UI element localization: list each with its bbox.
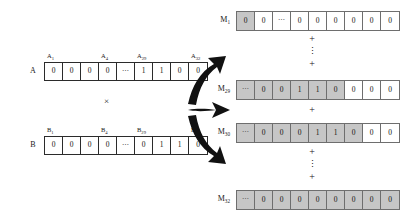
sep-1-symbol-2: + xyxy=(302,58,322,70)
operand-a-label-0: A1 xyxy=(47,51,54,61)
product-m29-cell-1: 0 xyxy=(255,81,273,99)
operand-b-cell-0: 0 xyxy=(45,137,63,154)
operand-a-cell-3: 0 xyxy=(99,63,117,80)
product-m32-cell-5: 0 xyxy=(327,191,345,209)
operand-a-label-2: A29 xyxy=(137,51,146,61)
product-m32-cell-6: 0 xyxy=(345,191,363,209)
product-m32-cell-1: 0 xyxy=(255,191,273,209)
product-m1-cell-4: 0 xyxy=(309,12,327,30)
product-row-m1-label: M1 xyxy=(212,11,230,29)
product-m1-cell-5: 0 xyxy=(327,12,345,30)
product-row-m32-label: M32 xyxy=(212,190,230,208)
separator-plus-vdots-plus-1: +⋮+ xyxy=(302,33,322,70)
operand-b-cell-5: 0 xyxy=(135,137,153,154)
operand-a-label-1: A4 xyxy=(101,51,108,61)
operand-b-label-2: B29 xyxy=(137,125,146,135)
operand-a-cell-4: ⋯ xyxy=(117,63,135,80)
product-m1-cell-7: 0 xyxy=(363,12,381,30)
product-m32-cell-2: 0 xyxy=(273,191,291,209)
product-m29-cell-5: 0 xyxy=(327,81,345,99)
operand-a-name: A xyxy=(26,62,40,79)
product-m1-cell-0: 0 xyxy=(237,12,255,30)
product-row-m29-label: M29 xyxy=(212,80,230,98)
product-m29-cell-4: 1 xyxy=(309,81,327,99)
product-row-m30-label: M30 xyxy=(212,123,230,141)
product-m1-cell-8: 0 xyxy=(381,12,399,30)
sep-3-symbol-0: + xyxy=(302,146,322,158)
product-row-m1-cells: 00⋯000000 xyxy=(236,11,400,31)
separator-plus-vdots-plus-3: +⋮+ xyxy=(302,146,322,183)
product-m30-cell-4: 1 xyxy=(309,124,327,142)
product-m30-cell-8: 0 xyxy=(381,124,399,142)
operand-b-cell-3: 0 xyxy=(99,137,117,154)
operand-b-name: B xyxy=(26,136,40,153)
product-row-m30-cells: ⋯00011000 xyxy=(236,123,400,143)
operand-b-label-0: B1 xyxy=(47,125,54,135)
operand-a-cell-0: 0 xyxy=(45,63,63,80)
separator-plus-2: + xyxy=(302,104,322,116)
operand-a-cell-2: 0 xyxy=(81,63,99,80)
product-m1-cell-6: 0 xyxy=(345,12,363,30)
sep-3-symbol-2: + xyxy=(302,171,322,183)
operand-b-cell-6: 1 xyxy=(153,137,171,154)
product-m30-cell-6: 0 xyxy=(345,124,363,142)
operand-a-cells: 0000⋯1100 xyxy=(44,62,208,81)
product-m30-cell-3: 0 xyxy=(291,124,309,142)
product-m32-cell-0: ⋯ xyxy=(237,191,255,209)
product-row-m29-cells: ⋯00110000 xyxy=(236,80,400,100)
product-m30-cell-0: ⋯ xyxy=(237,124,255,142)
sep-1-symbol-1: ⋮ xyxy=(302,45,322,58)
product-m29-cell-0: ⋯ xyxy=(237,81,255,99)
product-m30-cell-7: 0 xyxy=(363,124,381,142)
product-m29-cell-6: 0 xyxy=(345,81,363,99)
product-m29-cell-8: 0 xyxy=(381,81,399,99)
product-m30-cell-2: 0 xyxy=(273,124,291,142)
product-row-m32-cells: ⋯00000000 xyxy=(236,190,400,210)
product-m30-cell-5: 1 xyxy=(327,124,345,142)
operand-b-label-1: B4 xyxy=(101,125,108,135)
sep-2-symbol-0: + xyxy=(302,104,322,116)
product-m32-cell-4: 0 xyxy=(309,191,327,209)
operand-a-cell-1: 0 xyxy=(63,63,81,80)
product-m1-cell-1: 0 xyxy=(255,12,273,30)
multiply-operator: × xyxy=(104,96,109,106)
product-m1-cell-2: ⋯ xyxy=(273,12,291,30)
operand-b-cell-4: ⋯ xyxy=(117,137,135,154)
product-m32-cell-3: 0 xyxy=(291,191,309,209)
sep-1-symbol-0: + xyxy=(302,33,322,45)
operand-a-cell-6: 1 xyxy=(153,63,171,80)
operand-b-cells: 0000⋯0110 xyxy=(44,136,208,155)
product-m30-cell-1: 0 xyxy=(255,124,273,142)
operand-b-cell-2: 0 xyxy=(81,137,99,154)
fanout-arrows-group xyxy=(186,52,234,168)
product-m29-cell-2: 0 xyxy=(273,81,291,99)
product-m1-cell-3: 0 xyxy=(291,12,309,30)
product-m29-cell-7: 0 xyxy=(363,81,381,99)
product-m29-cell-3: 1 xyxy=(291,81,309,99)
sep-3-symbol-1: ⋮ xyxy=(302,158,322,171)
operand-b-cell-1: 0 xyxy=(63,137,81,154)
product-m32-cell-8: 0 xyxy=(381,191,399,209)
operand-a-cell-5: 1 xyxy=(135,63,153,80)
product-m32-cell-7: 0 xyxy=(363,191,381,209)
